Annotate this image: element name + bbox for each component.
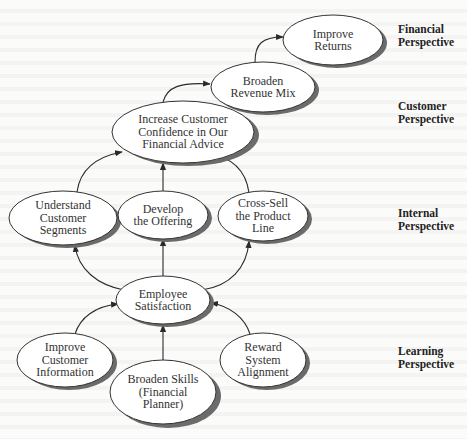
arrow-confidence-to-revenue — [163, 84, 210, 102]
node-label-broaden-revenue-mix: Broaden Revenue Mix — [216, 69, 310, 105]
arrow-employee-to-crosssell — [202, 241, 249, 290]
strategy-map-diagram: Improve Returns Broaden Revenue Mix Incr… — [0, 0, 467, 439]
node-label-broaden-skills: Broaden Skills (Financial Planner) — [114, 370, 212, 414]
perspective-label-internal: Internal Perspective — [398, 207, 454, 233]
arrow-employee-to-segments — [75, 245, 124, 290]
arrow-info-to-employee — [75, 304, 118, 334]
arrow-segments-to-confidence — [77, 152, 122, 192]
perspective-label-learning: Learning Perspective — [398, 345, 454, 371]
node-label-reward-alignment: Reward System Alignment — [222, 338, 304, 382]
node-label-develop-offering: Develop the Offering — [121, 197, 205, 233]
arrow-revenue-to-returns — [255, 37, 283, 62]
node-label-employee-satisfaction: Employee Satisfaction — [119, 282, 207, 318]
node-label-increase-confidence: Increase Customer Confidence in Our Fina… — [117, 110, 249, 154]
node-label-improve-returns: Improve Returns — [288, 22, 378, 58]
node-label-understand-segments: Understand Customer Segments — [14, 196, 112, 240]
node-label-cross-sell: Cross-Sell the Product Line — [221, 194, 305, 238]
perspective-label-financial: Financial Perspective — [398, 23, 454, 49]
arrow-reward-to-employee — [211, 303, 250, 334]
perspective-label-customer: Customer Perspective — [398, 100, 454, 126]
node-label-improve-customer-info: Improve Customer Information — [20, 338, 110, 382]
